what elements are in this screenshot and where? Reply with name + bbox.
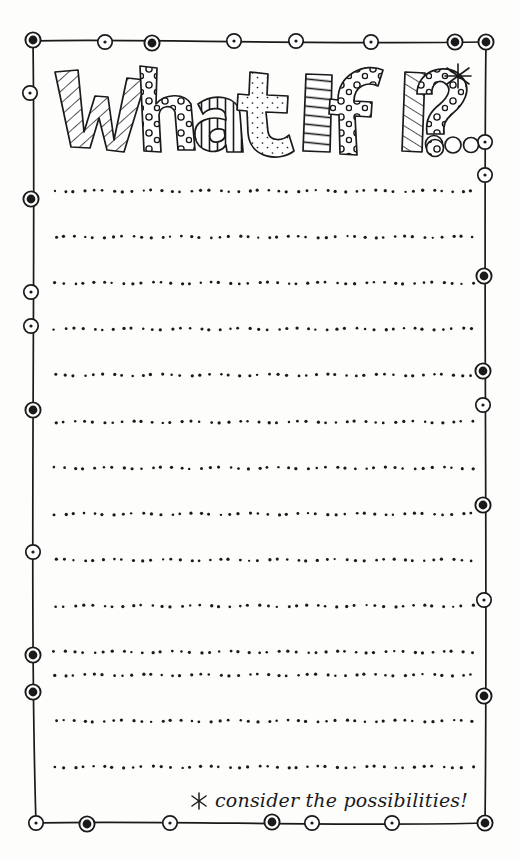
border-bead-top-hollow xyxy=(227,34,241,48)
worksheet-canvas: consider the possibilities! xyxy=(0,0,520,859)
border-bead-left-hollow xyxy=(23,86,37,100)
writing-line[interactable] xyxy=(53,465,475,470)
border-bead-right-filled xyxy=(476,688,491,703)
border-bead-left-hollow xyxy=(24,319,38,333)
writing-line[interactable] xyxy=(54,189,472,194)
writing-line[interactable] xyxy=(55,234,473,239)
writing-lines-group xyxy=(52,189,475,770)
footer-text: consider the possibilities! xyxy=(215,789,468,811)
border-bead-bottom-filled xyxy=(264,814,279,829)
title-letter-a xyxy=(195,97,243,152)
worksheet-page: consider the possibilities! What If I...… xyxy=(0,0,520,859)
border-bead-bottom-hollow xyxy=(163,816,177,830)
writing-line[interactable] xyxy=(52,326,473,331)
border-bead-left-filled xyxy=(25,647,40,662)
title-doodle-lettering xyxy=(55,66,479,157)
border-bead-right-filled xyxy=(475,363,490,378)
frame-bottom-line xyxy=(36,822,485,824)
writing-line[interactable] xyxy=(53,511,473,516)
border-bead-right-filled xyxy=(476,268,491,283)
border-bead-top-filled xyxy=(447,34,462,49)
border-bead-top-filled xyxy=(25,32,40,47)
border-bead-left-hollow xyxy=(26,545,40,559)
title-letter-t xyxy=(237,72,294,157)
border-bead-right-hollow xyxy=(477,593,491,607)
border-bead-right-hollow xyxy=(478,168,492,182)
border-bead-right-filled xyxy=(477,815,492,830)
border-bead-top-hollow xyxy=(98,35,112,49)
writing-line[interactable] xyxy=(53,280,475,285)
border-bead-bottom-hollow xyxy=(385,816,399,830)
writing-line[interactable] xyxy=(53,672,472,677)
title-letter-f xyxy=(329,68,383,155)
border-bead-top-hollow xyxy=(364,35,378,49)
title-ellipsis-dot-3 xyxy=(464,138,479,153)
border-bead-right-filled xyxy=(475,497,490,512)
title-question-mark-dot xyxy=(427,140,444,157)
footer-asterisk-icon xyxy=(192,793,206,809)
writing-line[interactable] xyxy=(54,604,475,609)
border-bead-bottom-filled xyxy=(79,816,94,831)
border-bead-left-filled xyxy=(25,402,40,417)
border-bead-left-hollow xyxy=(29,816,43,830)
border-bead-bottom-hollow xyxy=(305,816,319,830)
border-frame xyxy=(33,40,486,824)
border-bead-top-hollow xyxy=(289,34,303,48)
title-letter-I-first xyxy=(303,74,332,152)
title-letter-W xyxy=(55,70,146,152)
border-bead-top-filled xyxy=(478,34,493,49)
frame-left-line xyxy=(33,41,36,823)
writing-line[interactable] xyxy=(52,650,474,655)
title-ellipsis-dot-2 xyxy=(445,137,461,153)
border-bead-left-filled xyxy=(25,684,40,699)
frame-right-line xyxy=(485,42,486,823)
writing-line[interactable] xyxy=(55,419,475,424)
title-letter-h xyxy=(140,66,195,152)
writing-line[interactable] xyxy=(55,718,473,723)
border-bead-left-hollow xyxy=(24,285,38,299)
border-bead-right-hollow xyxy=(478,135,492,149)
border-bead-left-filled xyxy=(23,191,38,206)
border-bead-right-hollow xyxy=(476,398,490,412)
writing-line[interactable] xyxy=(53,764,475,769)
writing-line[interactable] xyxy=(54,372,472,377)
writing-line[interactable] xyxy=(55,558,473,563)
border-bead-top-filled xyxy=(144,35,159,50)
